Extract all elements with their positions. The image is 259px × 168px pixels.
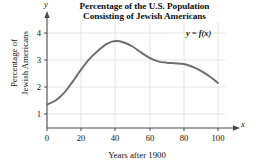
chart-figure: Percentage of the U.S. Population Consis… — [0, 0, 259, 168]
x-tick-label-60: 60 — [140, 133, 160, 143]
y-axis-arrowhead — [44, 11, 49, 18]
x-tick-label-40: 40 — [105, 133, 125, 143]
x-tick-label-100: 100 — [208, 133, 228, 143]
x-axis-letter: x — [241, 119, 245, 129]
x-axis-title: Years after 1900 — [62, 150, 212, 160]
x-axis-arrowhead — [233, 125, 240, 130]
y-axis-title-line-1: Percentage of — [9, 39, 19, 87]
y-axis-title-line-2: Jewish Americans — [20, 7, 31, 119]
x-tick-label-0: 0 — [37, 133, 57, 143]
data-curve-fx — [47, 41, 218, 104]
y-axis-letter: y — [44, 0, 48, 9]
x-tick-label-20: 20 — [71, 133, 91, 143]
x-tick-label-80: 80 — [174, 133, 194, 143]
y-axis-title: Percentage of Jewish Americans — [9, 7, 31, 119]
function-annotation: y = f(x) — [186, 29, 211, 38]
